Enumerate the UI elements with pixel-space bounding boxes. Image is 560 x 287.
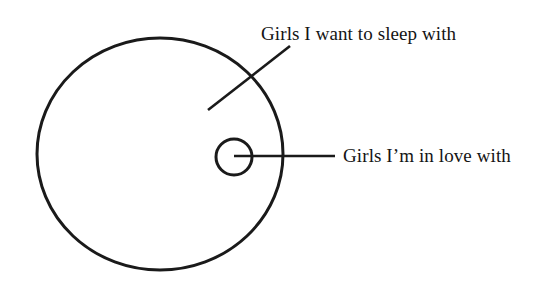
- outer-set-circle: [37, 38, 283, 270]
- outer-set-label: Girls I want to sleep with: [261, 24, 456, 43]
- outer-set-leader-line: [208, 46, 290, 110]
- inner-set-label: Girls I’m in love with: [343, 146, 511, 165]
- venn-diagram-figure: Girls I want to sleep with Girls I’m in …: [0, 0, 560, 287]
